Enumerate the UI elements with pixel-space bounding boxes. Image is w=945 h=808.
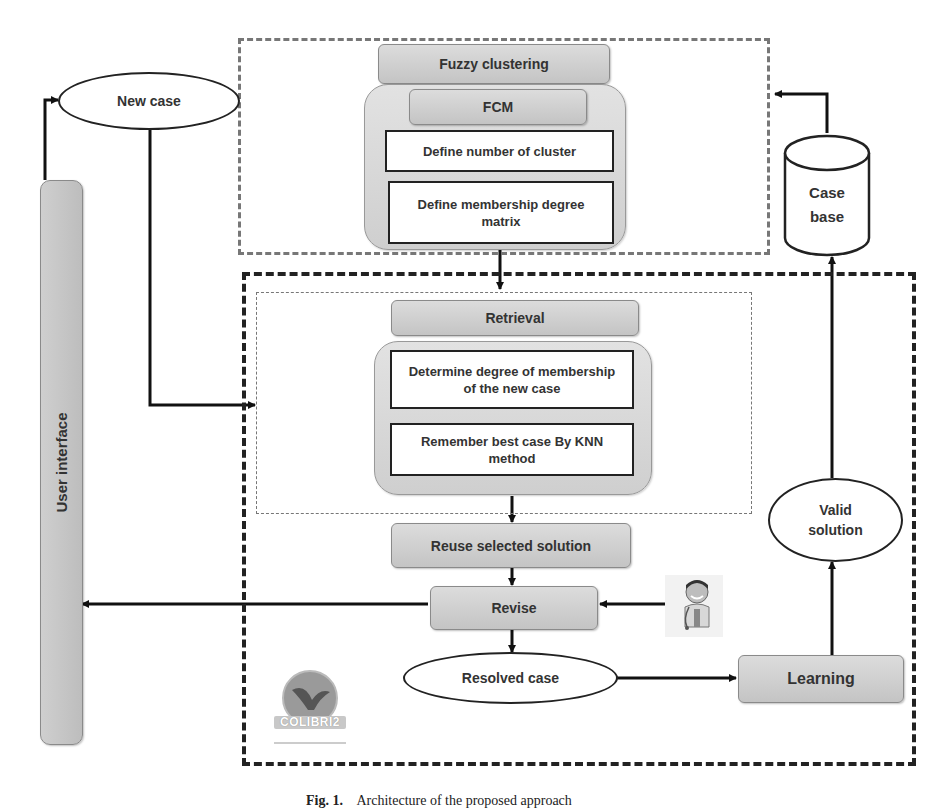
- fcm-label: FCM: [483, 99, 513, 115]
- step-label: Remember best case By KNN method: [402, 433, 622, 467]
- resolved-case-node[interactable]: Resolved case: [403, 652, 618, 704]
- step-label: Define membership degree matrix: [410, 196, 592, 230]
- step-determine-membership[interactable]: Determine degree of membership of the ne…: [390, 350, 634, 409]
- figure-caption: Fig. 1. Architecture of the proposed app…: [306, 793, 572, 808]
- case-base-node[interactable]: Case base: [782, 133, 872, 258]
- step-label: Define number of cluster: [423, 143, 576, 160]
- edge-casebase-to-clustering: [775, 94, 827, 133]
- retrieval-header[interactable]: Retrieval: [391, 300, 639, 336]
- fuzzy-clustering-title: Fuzzy clustering: [439, 56, 549, 72]
- new-case-node[interactable]: New case: [58, 72, 240, 130]
- step-define-membership-matrix[interactable]: Define membership degree matrix: [388, 181, 614, 244]
- retrieval-title: Retrieval: [485, 310, 544, 326]
- learning-label: Learning: [787, 670, 855, 688]
- caption-text: Architecture of the proposed approach: [356, 793, 571, 808]
- valid-solution-label-line1: Valid: [819, 500, 852, 520]
- user-interface-label: User interface: [53, 412, 70, 512]
- reuse-label: Reuse selected solution: [431, 538, 591, 554]
- revise-node[interactable]: Revise: [430, 586, 598, 630]
- case-base-label-line2: base: [782, 205, 872, 229]
- case-base-label-line1: Case: [782, 181, 872, 205]
- resolved-case-label: Resolved case: [462, 668, 559, 688]
- reuse-node[interactable]: Reuse selected solution: [391, 523, 631, 568]
- step-define-number-of-cluster[interactable]: Define number of cluster: [385, 130, 614, 172]
- step-label: Determine degree of membership of the ne…: [402, 363, 622, 397]
- learning-node[interactable]: Learning: [738, 655, 904, 703]
- fuzzy-clustering-header[interactable]: Fuzzy clustering: [378, 44, 610, 84]
- colibri-logo: COLIBRI2: [270, 668, 350, 750]
- valid-solution-label-line2: solution: [808, 520, 862, 540]
- fcm-header[interactable]: FCM: [409, 89, 587, 125]
- caption-prefix: Fig. 1.: [306, 793, 343, 808]
- doctor-icon: [665, 575, 723, 637]
- revise-label: Revise: [491, 600, 536, 616]
- logo-text: COLIBRI2: [274, 715, 346, 729]
- edge-ui-to-newcase: [45, 100, 58, 180]
- user-interface-bar[interactable]: User interface: [40, 180, 83, 745]
- new-case-label: New case: [117, 91, 181, 111]
- valid-solution-node[interactable]: Valid solution: [768, 478, 903, 562]
- step-remember-best-case-knn[interactable]: Remember best case By KNN method: [390, 423, 634, 476]
